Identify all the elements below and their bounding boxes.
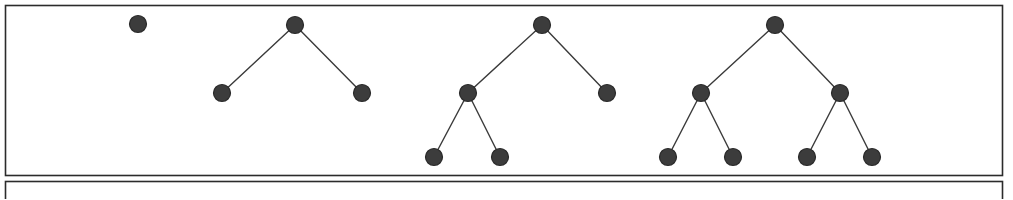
- tree-edge: [295, 25, 362, 93]
- tree-node-left-right-grandchild: [725, 149, 742, 166]
- tree-edges: [222, 25, 872, 157]
- lower-panel: [6, 182, 1003, 200]
- tree-nodes: [130, 16, 881, 166]
- tree-node-right-child: [832, 85, 849, 102]
- tree-node-left-child: [693, 85, 710, 102]
- tree-node-left-child: [214, 85, 231, 102]
- tree-edge: [468, 25, 542, 93]
- tree-edge: [468, 93, 500, 157]
- tree-node-right-child: [354, 85, 371, 102]
- tree-node-root: [767, 17, 784, 34]
- tree-node-left-left-grandchild: [426, 149, 443, 166]
- tree-node-right-right-grandchild: [864, 149, 881, 166]
- tree-node-left-left-grandchild: [660, 149, 677, 166]
- tree-node-left-child: [460, 85, 477, 102]
- tree-node-root: [130, 16, 147, 33]
- tree-node-left-right-grandchild: [492, 149, 509, 166]
- tree-edge: [807, 93, 840, 157]
- tree-edge: [701, 25, 775, 93]
- binary-trees-diagram: [0, 0, 1013, 199]
- panel-frames: [6, 6, 1003, 200]
- tree-node-right-child: [599, 85, 616, 102]
- tree-edge: [668, 93, 701, 157]
- tree-edge: [434, 93, 468, 157]
- tree-edge: [542, 25, 607, 93]
- tree-node-root: [287, 17, 304, 34]
- tree-edge: [840, 93, 872, 157]
- tree-edge: [701, 93, 733, 157]
- tree-edge: [222, 25, 295, 93]
- tree-node-right-left-grandchild: [799, 149, 816, 166]
- tree-node-root: [534, 17, 551, 34]
- figure-container: [0, 0, 1013, 199]
- tree-edge: [775, 25, 840, 93]
